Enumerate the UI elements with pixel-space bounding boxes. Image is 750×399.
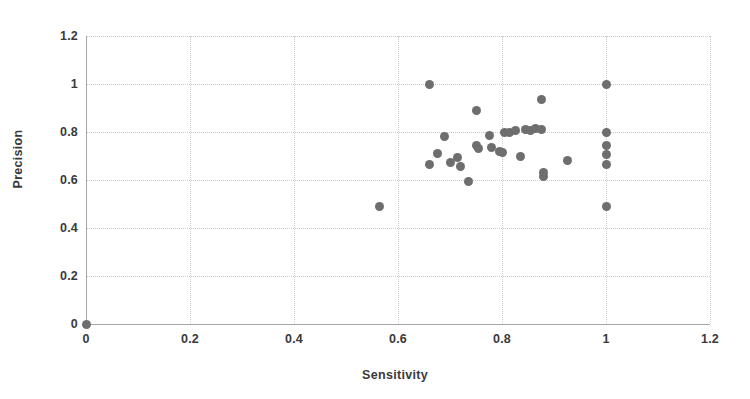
- x-tick-label: 0: [56, 332, 116, 346]
- y-axis-line: [86, 36, 87, 324]
- x-axis-line: [86, 324, 710, 325]
- x-tick-label: 0.8: [472, 332, 532, 346]
- plot-area: [86, 36, 710, 324]
- x-axis-ticks: 00.20.40.60.811.2: [0, 332, 750, 352]
- gridline-vertical: [190, 36, 191, 324]
- gridline-vertical: [294, 36, 295, 324]
- x-tick-label: 0.2: [160, 332, 220, 346]
- x-tick-label: 0.6: [368, 332, 428, 346]
- x-tick-label: 0.4: [264, 332, 324, 346]
- gridline-vertical: [398, 36, 399, 324]
- gridline-vertical: [606, 36, 607, 324]
- x-axis-title: Sensitivity: [0, 368, 750, 382]
- gridline-vertical: [502, 36, 503, 324]
- x-axis-title-label: Sensitivity: [322, 368, 428, 382]
- gridline-vertical: [710, 36, 711, 324]
- x-tick-label: 1.2: [680, 332, 740, 346]
- y-tick-label: 0.2: [8, 269, 78, 283]
- scatter-chart: 00.20.40.60.811.2 00.20.40.60.811.2 Sens…: [0, 0, 750, 399]
- y-tick-label: 0: [8, 317, 78, 331]
- x-tick-label: 1: [576, 332, 636, 346]
- y-axis-title: Precision: [11, 79, 25, 239]
- y-tick-label: 1.2: [8, 29, 78, 43]
